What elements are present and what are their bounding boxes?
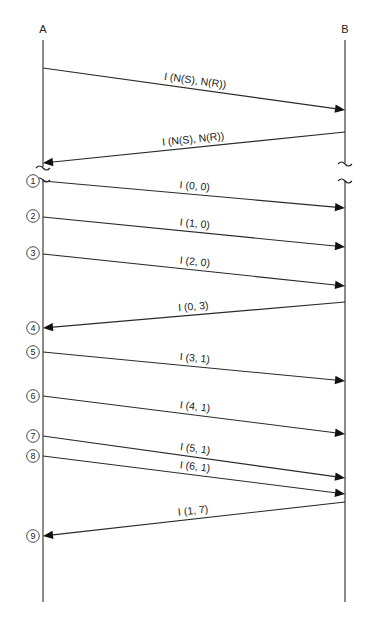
step-marker: 1 [27,175,40,188]
message-arrow: I (0, 0) [43,178,345,211]
step-marker: 8 [27,450,40,463]
step-marker: 3 [27,247,40,260]
message-arrow: I (4, 1) [43,396,345,437]
step-marker: 5 [27,346,40,359]
message-label: I (5, 1) [179,440,211,456]
sequence-diagram: AB I (N(S), N(R))I (N(S), N(R))I (0, 0)I… [0,0,369,631]
message-arrow: I (5, 1) [43,436,345,481]
message-arrow: I (N(S), N(R)) [43,129,345,166]
message-arrow: I (1, 0) [43,216,345,251]
message-label: I (6, 1) [179,458,211,474]
step-marker: 9 [27,530,40,543]
step-markers: 123456789 [27,175,40,543]
arrowhead-icon [335,104,345,112]
message-arrow: I (0, 3) [43,299,345,332]
step-number: 1 [30,176,35,186]
message-label: I (4, 1) [179,398,211,414]
arrowhead-icon [335,429,345,437]
message-label: I (N(S), N(R)) [164,70,227,90]
step-marker: 4 [27,322,40,335]
message-arrow: I (2, 0) [43,253,345,289]
arrowhead-icon [335,376,345,384]
step-number: 2 [30,211,35,221]
message-arrow: I (3, 1) [43,350,345,384]
step-number: 5 [30,347,35,357]
step-marker: 7 [27,430,40,443]
message-label: I (2, 0) [179,253,210,268]
arrowhead-icon [335,281,345,289]
message-arrow: I (1, 7) [43,502,345,539]
step-marker: 2 [27,210,40,223]
step-number: 6 [30,391,35,401]
message-label: I (1, 7) [177,502,208,517]
messages: I (N(S), N(R))I (N(S), N(R))I (0, 0)I (1… [43,68,345,539]
arrowhead-icon [335,203,345,211]
step-number: 4 [30,323,35,333]
arrowhead-icon [335,242,345,250]
step-number: 8 [30,451,35,461]
arrowhead-icon [335,489,345,497]
message-arrow: I (N(S), N(R)) [43,68,345,113]
message-label: I (0, 0) [179,178,210,193]
step-number: 3 [30,248,35,258]
lifeline-label-b: B [341,23,348,35]
message-arrow: I (6, 1) [43,456,345,497]
arrowhead-icon [43,531,53,539]
arrowhead-icon [43,158,53,166]
arrowhead-icon [335,472,345,480]
lifeline-label-a: A [39,23,47,35]
step-marker: 6 [27,390,40,403]
message-label: I (1, 0) [179,216,210,231]
arrowhead-icon [43,323,53,331]
step-number: 9 [30,531,35,541]
step-number: 7 [30,431,35,441]
message-label: I (0, 3) [178,299,209,314]
message-label: I (3, 1) [179,350,210,365]
